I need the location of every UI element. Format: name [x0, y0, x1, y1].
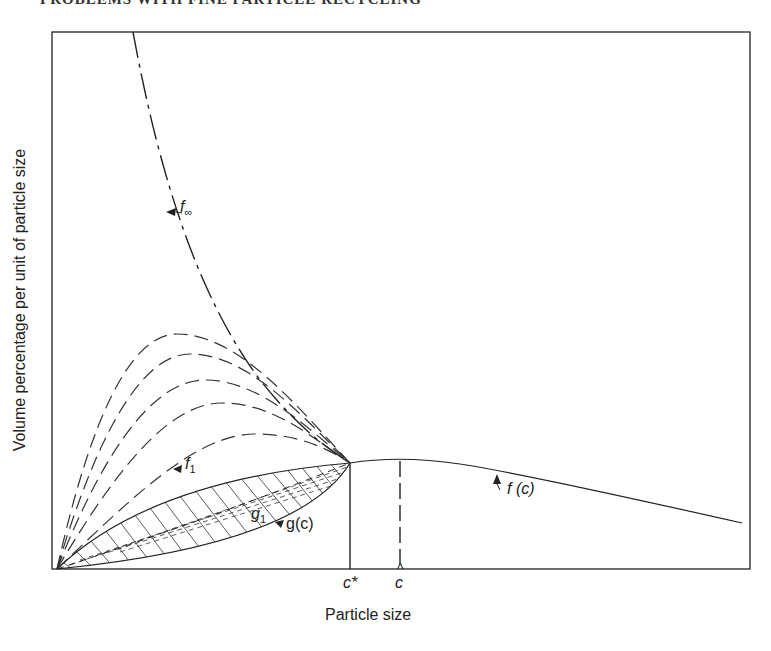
x-axis-label: Particle size — [325, 606, 411, 624]
label-f-c: f (c) — [507, 480, 535, 498]
pointer-f-c — [493, 474, 501, 484]
curve-f-c — [350, 459, 742, 523]
y-axis-label: Volume percentage per unit of particle s… — [11, 149, 29, 451]
chart-plot-area — [0, 0, 771, 651]
tick-label-c-star: c* — [343, 574, 357, 592]
curve-f-family-1 — [57, 334, 350, 569]
curve-f-family-2 — [57, 354, 350, 569]
tick-label-c-hat-accent: ^ — [397, 561, 404, 577]
hatched-region — [60, 463, 360, 575]
label-g-1: g1 — [251, 505, 266, 525]
plot-frame — [52, 32, 750, 569]
pointer-f-infinity — [166, 208, 176, 216]
curve-f-infinity — [133, 32, 350, 463]
curve-f-family-3 — [57, 380, 350, 569]
curve-f-family-4 — [57, 403, 350, 569]
label-f-1: f1 — [185, 455, 196, 475]
label-f-infinity: f∞ — [180, 198, 192, 218]
label-g-c: g(c) — [286, 515, 314, 533]
